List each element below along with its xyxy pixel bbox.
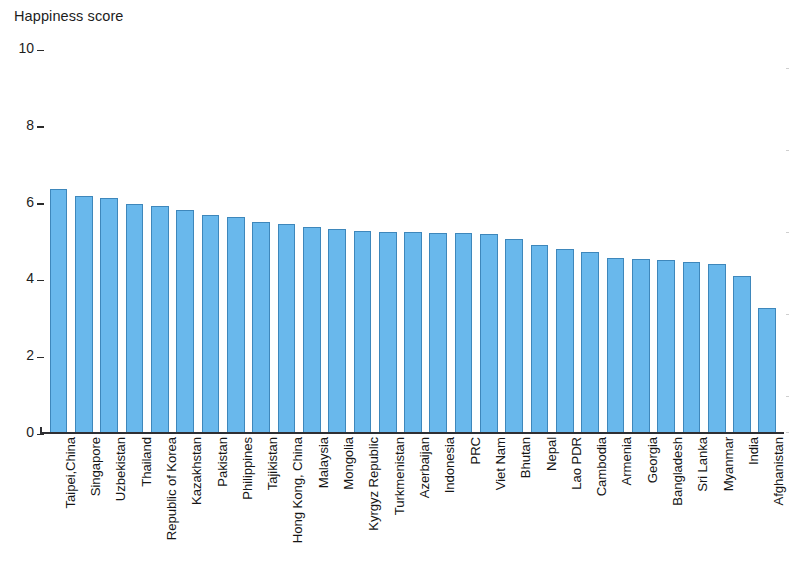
bar[interactable]: [151, 206, 169, 433]
x-axis-label: Taipei,China: [64, 437, 77, 508]
y-axis-tick-mark: [37, 126, 44, 128]
x-axis-label: Uzbekistan: [114, 437, 127, 501]
x-axis-label: Pakistan: [216, 437, 229, 487]
y-axis-tick: 2: [26, 347, 46, 363]
bar[interactable]: [758, 308, 776, 433]
x-axis-label: Sri Lanka: [696, 437, 709, 492]
y-axis-tick-label: 4: [26, 270, 34, 286]
y-axis-tick-mark: [37, 203, 44, 205]
x-axis-label: Turkmenistan: [393, 437, 406, 515]
bar[interactable]: [581, 252, 599, 433]
scan-artifact: [786, 432, 789, 433]
x-axis-label: Philippines: [241, 437, 254, 500]
x-axis-label: Armenia: [620, 437, 633, 485]
y-axis-tick: 6: [26, 194, 46, 210]
y-axis-tick-label: 8: [26, 117, 34, 133]
bar[interactable]: [708, 264, 726, 433]
y-axis-tick-mark: [37, 50, 44, 52]
bar[interactable]: [354, 231, 372, 434]
x-axis-labels: Taipei,ChinaSingaporeUzbekistanThailandR…: [46, 437, 780, 576]
bar[interactable]: [505, 239, 523, 433]
bar[interactable]: [480, 234, 498, 433]
bar[interactable]: [126, 204, 144, 433]
scan-artifact: [786, 150, 789, 151]
bar[interactable]: [607, 258, 625, 433]
y-axis-tick: 8: [26, 117, 46, 133]
bar[interactable]: [100, 198, 118, 433]
y-axis-origin-tick: [40, 427, 42, 433]
bar[interactable]: [404, 232, 422, 433]
x-axis-label: Myanmar: [722, 437, 735, 491]
bar[interactable]: [379, 232, 397, 433]
x-axis-label: Kazakhstan: [190, 437, 203, 505]
bar[interactable]: [733, 276, 751, 433]
bar[interactable]: [455, 233, 473, 433]
scan-artifact: [786, 314, 789, 315]
bar[interactable]: [202, 215, 220, 433]
x-axis-label: Azerbaijan: [418, 437, 431, 498]
x-axis-label: Hong Kong, China: [291, 437, 304, 543]
y-axis-tick-mark: [37, 357, 44, 359]
bar[interactable]: [632, 259, 650, 433]
scan-artifact: [786, 232, 789, 233]
bar[interactable]: [556, 249, 574, 433]
y-axis-tick-label: 6: [26, 194, 34, 210]
x-axis-label: Thailand: [140, 437, 153, 487]
bar[interactable]: [683, 262, 701, 433]
x-axis-label: Afghanistan: [772, 437, 785, 506]
x-axis-label: Nepal: [545, 437, 558, 471]
x-axis-label: Lao PDR: [570, 437, 583, 490]
x-axis-label: Bhutan: [519, 437, 532, 478]
bar[interactable]: [429, 233, 447, 433]
x-axis-label: PRC: [469, 437, 482, 465]
x-axis-label: Viet Nam: [494, 437, 507, 490]
bar[interactable]: [75, 196, 93, 433]
plot-area: [46, 48, 780, 433]
x-axis-label: Bangladesh: [671, 437, 684, 506]
y-axis-tick-label: 2: [26, 347, 34, 363]
x-axis-label: Tajikistan: [266, 437, 279, 490]
x-axis-baseline: [40, 432, 784, 434]
scan-artifact: [786, 396, 789, 397]
x-axis-label: Kyrgyz Republic: [367, 437, 380, 531]
bar[interactable]: [227, 217, 245, 433]
x-axis-label: Singapore: [89, 437, 102, 496]
happiness-score-bar-chart: Happiness score 0246810 Taipei,ChinaSing…: [0, 0, 791, 576]
x-axis-label: Malaysia: [317, 437, 330, 488]
x-axis-label: Indonesia: [443, 437, 456, 493]
x-axis-label: Mongolia: [342, 437, 355, 490]
bar[interactable]: [531, 245, 549, 433]
y-axis-tick: 4: [26, 270, 46, 286]
bar[interactable]: [278, 224, 296, 433]
y-axis-tick-mark: [37, 280, 44, 282]
x-axis-label: India: [747, 437, 760, 465]
bar[interactable]: [252, 222, 270, 433]
y-axis-tick-label: 10: [18, 40, 34, 56]
bar[interactable]: [303, 227, 321, 433]
y-axis-tick: 10: [18, 40, 46, 56]
bar[interactable]: [176, 210, 194, 433]
bar[interactable]: [328, 229, 346, 433]
x-axis-label: Cambodia: [595, 437, 608, 496]
bar[interactable]: [50, 189, 68, 433]
y-axis: 0246810: [0, 48, 46, 438]
scan-artifact: [786, 68, 789, 69]
y-axis-tick-label: 0: [26, 424, 34, 440]
x-axis-label: Georgia: [646, 437, 659, 483]
x-axis-label: Republic of Korea: [165, 437, 178, 540]
bar[interactable]: [657, 260, 675, 433]
chart-title: Happiness score: [14, 8, 124, 24]
